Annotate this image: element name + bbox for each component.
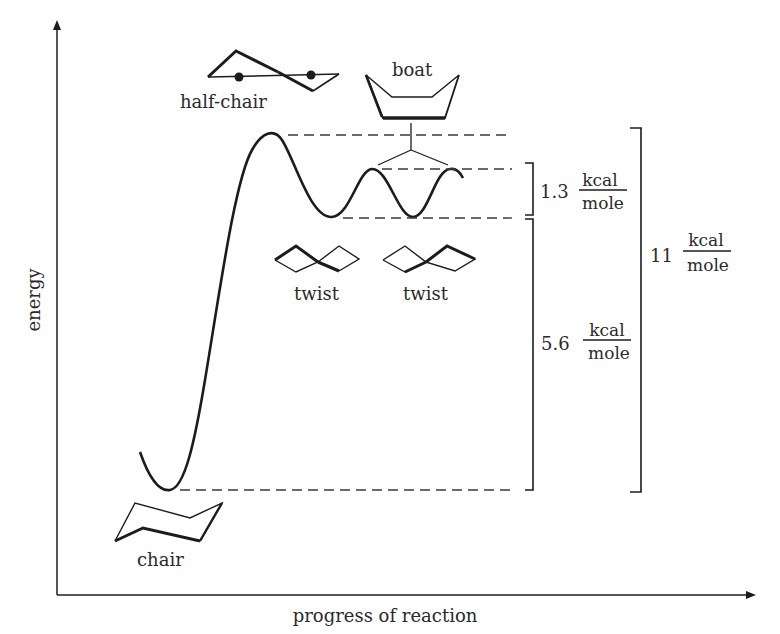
bracket-11 bbox=[630, 128, 641, 492]
gap-unit-den: mole bbox=[687, 255, 729, 275]
boat-structure-icon bbox=[366, 75, 459, 118]
x-axis-label: progress of reaction bbox=[293, 605, 478, 626]
y-axis-arrow-icon bbox=[53, 20, 61, 30]
gap-unit-den: mole bbox=[582, 193, 624, 213]
chair-structure-icon bbox=[115, 503, 222, 541]
gap-unit-num: kcal bbox=[589, 320, 624, 340]
reference-lines bbox=[180, 135, 512, 490]
gap-label-11: 11 kcal mole bbox=[650, 230, 731, 275]
gap-unit-num: kcal bbox=[582, 170, 617, 190]
gap-value: 1.3 bbox=[540, 181, 569, 202]
half-chair-structure-icon bbox=[208, 51, 339, 91]
twist-structure-1-icon bbox=[275, 246, 359, 272]
gap-value: 11 bbox=[650, 245, 673, 266]
y-axis-label: energy bbox=[23, 268, 44, 332]
twist-structure-2-icon bbox=[383, 246, 475, 272]
half-chair-label: half-chair bbox=[180, 91, 267, 112]
axes: energy progress of reaction bbox=[23, 20, 756, 626]
boat-pointer bbox=[378, 123, 448, 165]
twist-label-1: twist bbox=[294, 283, 340, 304]
gap-label-5-6: 5.6 kcal mole bbox=[541, 320, 631, 363]
twist-label-2: twist bbox=[403, 283, 449, 304]
energy-diagram: energy progress of reaction 1.3 kcal mol… bbox=[0, 0, 780, 634]
bracket-1-3 bbox=[525, 163, 533, 215]
gap-unit-num: kcal bbox=[688, 230, 723, 250]
bracket-5-6 bbox=[525, 219, 533, 490]
gap-value: 5.6 bbox=[541, 333, 570, 354]
gap-label-1-3: 1.3 kcal mole bbox=[540, 170, 627, 213]
energy-curve bbox=[140, 133, 463, 490]
gap-unit-den: mole bbox=[588, 343, 630, 363]
boat-label: boat bbox=[392, 59, 433, 80]
chair-label: chair bbox=[137, 549, 184, 570]
x-axis-arrow-icon bbox=[746, 591, 756, 599]
